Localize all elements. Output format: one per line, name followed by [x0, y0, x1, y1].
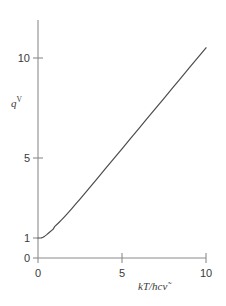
x-axis-title-italic: kT/hc — [138, 280, 162, 292]
x-tick-label-5: 5 — [112, 268, 132, 279]
y-tick-label-1: 1 — [6, 233, 30, 244]
y-axis-title-superscript: V — [17, 95, 22, 104]
x-axis-title-symbol: ν̃ — [162, 280, 167, 292]
y-tick-label-5: 5 — [6, 153, 30, 164]
chart-figure: 0 1 5 10 0 5 10 qV kT/hcν̃ — [0, 0, 226, 306]
y-tick-label-10: 10 — [6, 53, 30, 64]
y-axis-title: qV — [11, 96, 22, 109]
y-tick-label-0: 0 — [6, 253, 30, 264]
data-series-curve — [38, 48, 206, 238]
x-tick-label-0: 0 — [28, 268, 48, 279]
x-tick-label-10: 10 — [194, 268, 218, 279]
x-axis-title: kT/hcν̃ — [138, 281, 167, 292]
plot-canvas — [0, 0, 226, 306]
